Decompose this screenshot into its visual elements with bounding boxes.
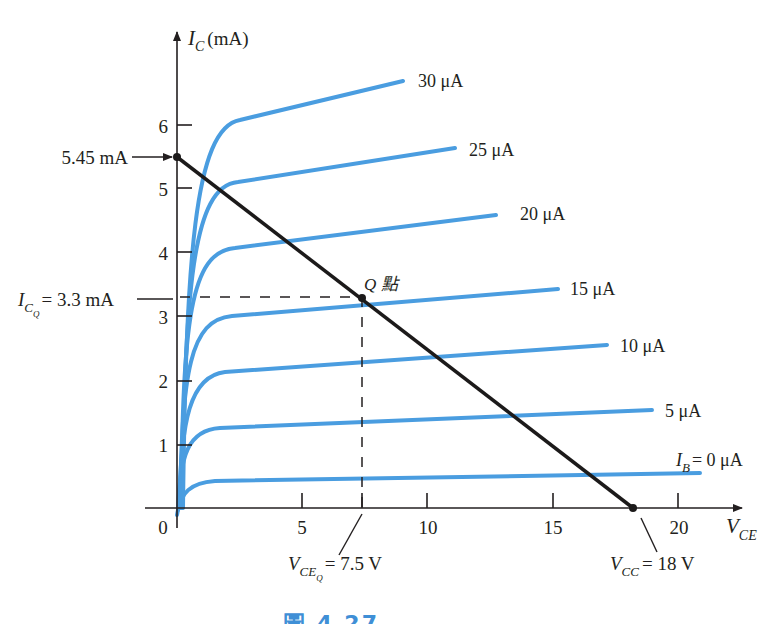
- vcc-label: VCC= 18 V: [610, 553, 695, 579]
- icq-label: ICQ= 3.3 mA: [17, 289, 114, 319]
- xtick-label-10: 10: [419, 517, 438, 538]
- ytick-label-3: 3: [159, 307, 169, 328]
- curve-ib-5: [178, 410, 652, 510]
- transistor-characteristics-chart: IC(mA) VCE 1 2 3 4 5 6 0 5 10 15 20 5.45…: [0, 0, 780, 624]
- y-tick-labels: 1 2 3 4 5 6: [159, 116, 169, 456]
- load-line-y-intercept-dot: [173, 153, 181, 161]
- origin-label: 0: [158, 517, 168, 538]
- curve-ib-25: [182, 148, 455, 508]
- y-axis-title: IC(mA): [187, 26, 249, 54]
- ytick-label-4: 4: [159, 243, 169, 264]
- vceq-leader-line: [339, 514, 362, 555]
- ytick-label-6: 6: [159, 116, 169, 137]
- x-axis-title: VCE: [726, 514, 757, 543]
- figure-caption: 圖 4.27: [283, 611, 379, 624]
- x-tick-labels: 0 5 10 15 20: [158, 517, 688, 538]
- vcc-leader-line: [641, 518, 657, 552]
- curve-label-10: 10 μA: [620, 336, 665, 356]
- load-line-x-intercept-dot: [629, 504, 637, 512]
- curve-label-25: 25 μA: [469, 140, 514, 160]
- xtick-label-5: 5: [297, 517, 307, 538]
- curve-label-30: 30 μA: [418, 71, 463, 91]
- axes: [145, 32, 742, 528]
- ytick-label-5: 5: [159, 179, 169, 200]
- curve-ib-30: [183, 81, 403, 508]
- leaders: [132, 157, 657, 555]
- ytick-label-2: 2: [159, 371, 169, 392]
- ib-curves: [177, 81, 700, 515]
- curve-ib-20: [181, 215, 496, 508]
- xtick-label-20: 20: [670, 517, 689, 538]
- intercept-label: 5.45 mA: [62, 147, 129, 168]
- curve-label-5: 5 μA: [665, 401, 701, 421]
- ytick-label-1: 1: [159, 435, 169, 456]
- q-point-label: Q 點: [364, 275, 400, 294]
- curve-label-15: 15 μA: [570, 279, 615, 299]
- xtick-label-15: 15: [544, 517, 563, 538]
- curve-label-0: IB= 0 μA: [675, 450, 743, 475]
- q-point-dot: [358, 294, 366, 302]
- curve-label-20: 20 μA: [520, 204, 565, 224]
- vceq-label: VCEQ= 7.5 V: [288, 553, 382, 583]
